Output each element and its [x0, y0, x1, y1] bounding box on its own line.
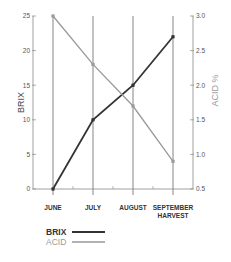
left-tick-label: 5: [26, 151, 30, 158]
left-tick-label: 15: [23, 82, 31, 89]
right-tick-label: 3.0: [196, 12, 205, 19]
legend: BRIXACID: [46, 227, 105, 247]
acid-point: [91, 63, 94, 66]
right-tick-label: 1.5: [196, 116, 205, 123]
brix-point: [51, 187, 54, 190]
category-label: HARVEST: [158, 212, 189, 219]
acid-line: [53, 16, 173, 161]
acid-point: [131, 104, 134, 107]
vertical-gridlines: [53, 16, 173, 195]
acid-point: [51, 14, 54, 17]
right-tick-label: 2.0: [196, 82, 205, 89]
category-label: JULY: [85, 204, 102, 211]
category-label: JUNE: [44, 204, 62, 211]
legend-label-brix: BRIX: [46, 227, 67, 237]
left-tick-label: 20: [23, 47, 31, 54]
left-tick-label: 25: [23, 12, 31, 19]
left-tick-label: 0: [26, 185, 30, 192]
brix-line: [53, 37, 173, 189]
acid-point: [171, 160, 174, 163]
category-label: AUGUST: [119, 204, 146, 211]
left-axis-title: BRIX: [16, 92, 26, 113]
right-tick-label: 2.5: [196, 47, 205, 54]
legend-label-acid: ACID: [46, 237, 66, 247]
brix-point: [131, 84, 134, 87]
left-tick-label: 10: [23, 116, 31, 123]
brix-point: [91, 118, 94, 121]
right-axis-title: ACID %: [210, 74, 220, 106]
axis-labels: 05101520250.51.01.52.02.53.0BRIXACID %JU…: [16, 12, 220, 219]
data-series: [51, 14, 174, 190]
brix-point: [171, 35, 174, 38]
right-tick-label: 1.0: [196, 151, 205, 158]
brix-acid-chart: 05101520250.51.01.52.02.53.0BRIXACID %JU…: [0, 0, 231, 262]
right-tick-label: 0.5: [196, 185, 205, 192]
category-label: SEPTEMBER: [153, 204, 194, 211]
